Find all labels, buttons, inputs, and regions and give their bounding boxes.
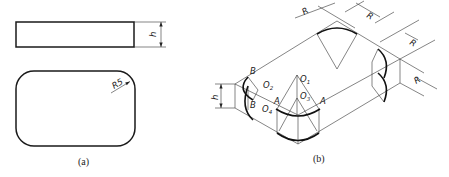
construction-line bbox=[400, 59, 424, 73]
label-A-right: A bbox=[319, 96, 326, 106]
caption-a: (a) bbox=[78, 156, 89, 168]
caption-b: (b) bbox=[313, 153, 325, 165]
construction-line bbox=[400, 40, 435, 59]
edge-top-right-back bbox=[337, 21, 400, 59]
panel-b: h R R R R B B A A O1 O2 O3 O4 (b) bbox=[210, 1, 437, 165]
construction-line bbox=[337, 34, 357, 69]
construction-line bbox=[375, 12, 394, 23]
h-label-b: h bbox=[210, 95, 220, 100]
edge-top-front-right bbox=[298, 59, 400, 115]
construction-line bbox=[317, 34, 337, 69]
drawing: h R5 (a) bbox=[0, 0, 449, 177]
label-O1: O1 bbox=[300, 74, 310, 85]
panel-a: h R5 (a) bbox=[16, 22, 166, 168]
r-label-2: R bbox=[365, 10, 375, 22]
r-label-3: R bbox=[408, 37, 418, 49]
arrow-up-icon bbox=[159, 22, 162, 27]
label-O4: O4 bbox=[262, 104, 273, 115]
figure-canvas: h R5 (a) bbox=[0, 0, 449, 177]
label-B-top: B bbox=[250, 66, 256, 76]
arrow-down-icon bbox=[219, 104, 222, 109]
label-A-left: A bbox=[273, 96, 280, 106]
h-label-a: h bbox=[148, 32, 158, 37]
construction-line bbox=[345, 1, 364, 12]
arc-right-bottom bbox=[378, 73, 386, 102]
construction-line bbox=[248, 77, 258, 90]
label-B-bottom: B bbox=[250, 100, 256, 110]
construction-line bbox=[400, 83, 424, 96]
arrow-up-icon bbox=[219, 84, 222, 89]
construction-line bbox=[372, 49, 378, 62]
r-label-1: R bbox=[300, 5, 310, 17]
label-O2: O2 bbox=[263, 80, 274, 91]
label-O3: O3 bbox=[300, 91, 311, 102]
r5-label: R5 bbox=[110, 76, 125, 90]
construction-line bbox=[372, 86, 384, 102]
front-view-rect bbox=[16, 22, 134, 47]
arrow-icon bbox=[125, 82, 130, 86]
arc-top-back bbox=[317, 28, 357, 34]
edge-bottom-front-right bbox=[298, 83, 400, 144]
arrow-down-icon bbox=[159, 43, 162, 48]
